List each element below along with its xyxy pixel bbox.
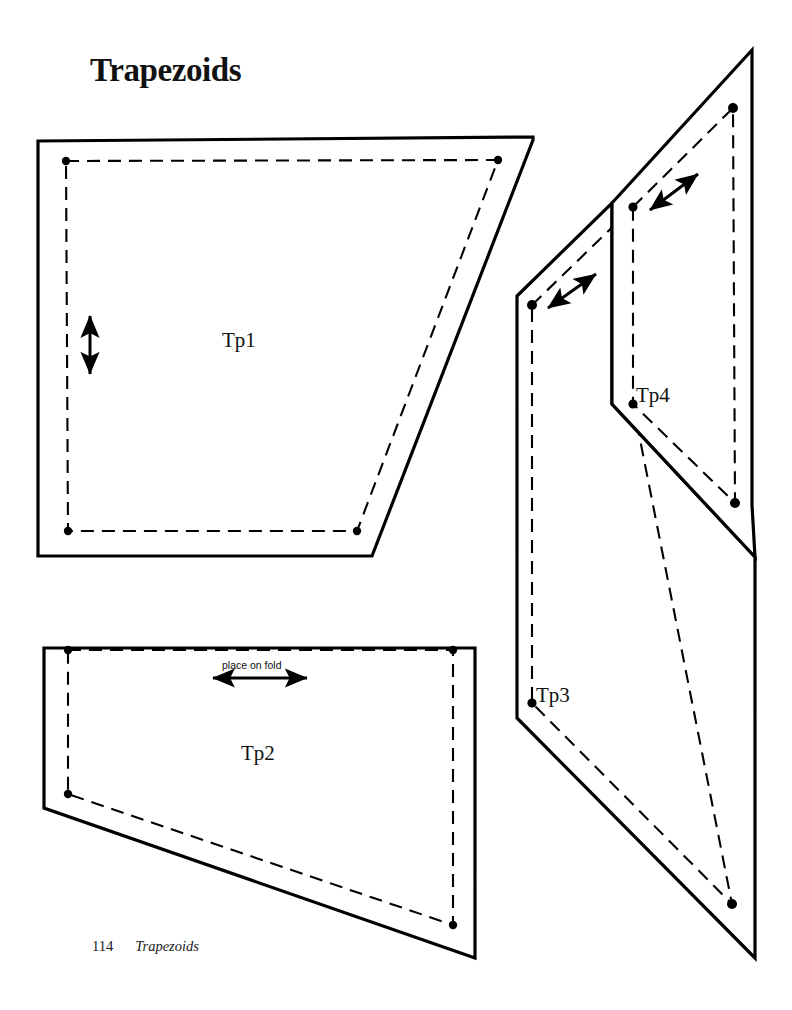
tp1-dot-br [353,527,361,535]
tp1-dot-bl [64,527,72,535]
tp3-dot-br [727,899,737,909]
tp2-dot-tl [64,646,72,654]
pattern-page: Trapezoids Tp1 Tp2 Tp3 Tp4 place on fold… [0,0,792,1010]
footer-page-number: 114 [92,938,113,954]
page-footer: 114Trapezoids [92,938,199,955]
page-title: Trapezoids [90,52,241,89]
tp4-dot-br [730,498,740,508]
place-on-fold-label: place on fold [222,659,282,671]
pattern-piece-tp2[interactable] [44,646,475,958]
tp4-dot-tl [628,202,637,211]
tp4-dot-tr [728,103,738,113]
pattern-piece-tp1[interactable] [38,137,533,556]
piece-label-tp2: Tp2 [241,741,275,766]
tp1-dot-tr [494,156,502,164]
piece-label-tp4: Tp4 [636,383,670,408]
footer-section-title: Trapezoids [135,938,199,954]
pattern-drawing [0,0,792,1010]
piece-label-tp3: Tp3 [536,683,570,708]
piece-label-tp1: Tp1 [222,328,256,353]
tp2-dot-br [449,921,457,929]
tp1-dot-tl [62,157,70,165]
tp3-dot-tl [527,300,537,310]
tp2-dot-tr [449,646,457,654]
tp1-cut-line [38,137,533,556]
tp2-dot-bl [64,790,72,798]
